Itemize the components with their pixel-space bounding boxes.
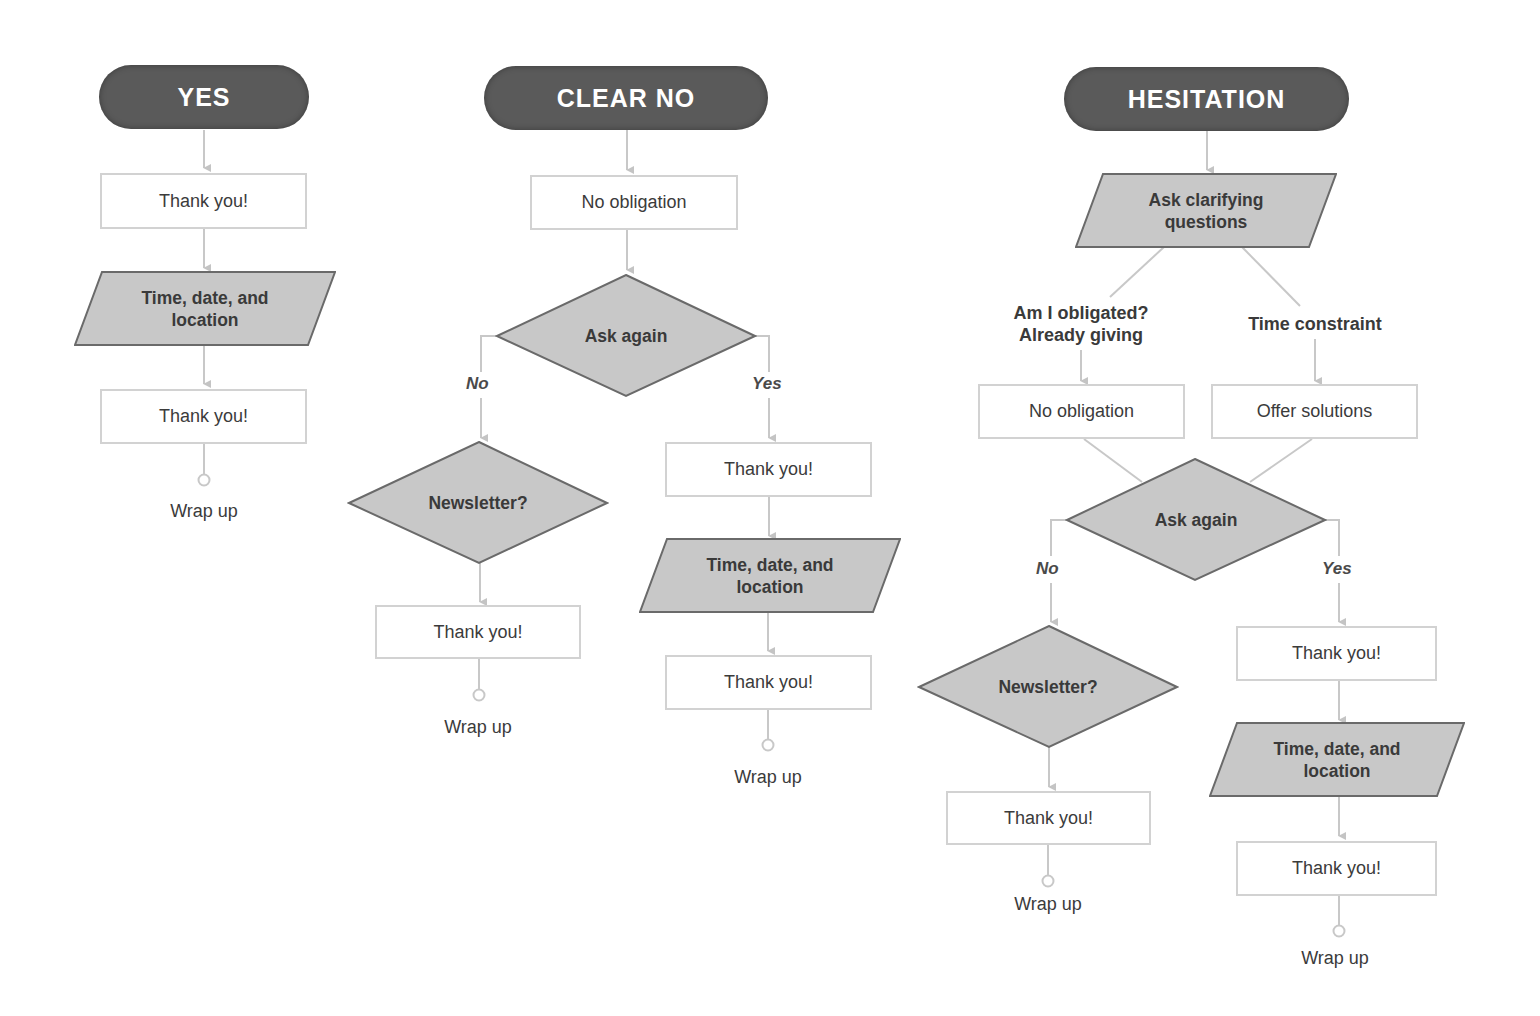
hesitation-yes-thank-you-label-1: Thank you!: [1292, 643, 1381, 664]
clear-no-ask-again-label: Ask again: [585, 325, 668, 347]
hesitation-ask-again-diamond: Ask again: [1065, 458, 1327, 582]
clear-no-no-thank-you-box: Thank you!: [375, 605, 581, 659]
hesitation-offer-solutions-box: Offer solutions: [1211, 384, 1418, 439]
hesitation-yes-thank-you-box-1: Thank you!: [1236, 626, 1437, 681]
hesitation-reason-time-label: Time constraint: [1215, 313, 1415, 335]
hesitation-reason-obligated-label: Am I obligated? Already giving: [981, 302, 1181, 346]
yes-thank-you-label-1: Thank you!: [159, 191, 248, 212]
clear-no-yes-wrap-up-label: Wrap up: [688, 766, 848, 788]
hesitation-no-thank-you-box: Thank you!: [946, 791, 1151, 845]
clear-no-no-wrap-up-label: Wrap up: [398, 716, 558, 738]
clear-no-header-terminal: CLEAR NO: [484, 66, 768, 130]
clear-no-ask-again-diamond: Ask again: [495, 274, 757, 398]
hesitation-no-wrap-up-label: Wrap up: [968, 893, 1128, 915]
clear-no-yes-thank-you-box-1: Thank you!: [665, 442, 872, 497]
hesitation-branch-yes-label: Yes: [1322, 559, 1352, 579]
hesitation-no-thank-you-label: Thank you!: [1004, 808, 1093, 829]
yes-wrap-up-label: Wrap up: [124, 500, 284, 522]
clear-no-branch-no-label: No: [466, 374, 489, 394]
clear-no-branch-yes-label: Yes: [752, 374, 782, 394]
hesitation-newsletter-label: Newsletter?: [998, 676, 1097, 698]
clear-no-header-label: CLEAR NO: [557, 84, 696, 113]
clear-no-no-thank-you-label: Thank you!: [433, 622, 522, 643]
hesitation-yes-wrap-up-label: Wrap up: [1255, 947, 1415, 969]
clear-no-newsletter-diamond: Newsletter?: [347, 441, 609, 565]
hesitation-header-terminal: HESITATION: [1064, 67, 1349, 131]
hesitation-ask-clarifying-parallelogram: Ask clarifying questions: [1075, 173, 1337, 248]
hesitation-no-obligation-label: No obligation: [1029, 401, 1134, 422]
hesitation-header-label: HESITATION: [1128, 85, 1286, 114]
flowchart-canvas: YES Thank you! Time, date, and location …: [0, 0, 1540, 1016]
yes-thank-you-box-1: Thank you!: [100, 173, 307, 229]
hesitation-yes-thank-you-box-2: Thank you!: [1236, 841, 1437, 896]
hesitation-ask-again-label: Ask again: [1155, 509, 1238, 531]
clear-no-no-obligation-label: No obligation: [581, 192, 686, 213]
yes-header-terminal: YES: [99, 65, 309, 129]
clear-no-newsletter-label: Newsletter?: [428, 492, 527, 514]
clear-no-yes-thank-you-label-2: Thank you!: [724, 672, 813, 693]
hesitation-no-obligation-box: No obligation: [978, 384, 1185, 439]
yes-time-date-location-parallelogram: Time, date, and location: [74, 271, 336, 346]
hesitation-ask-clarifying-label: Ask clarifying questions: [1149, 189, 1264, 233]
yes-header-label: YES: [177, 83, 230, 112]
hesitation-yes-thank-you-label-2: Thank you!: [1292, 858, 1381, 879]
clear-no-yes-time-date-location-label: Time, date, and location: [706, 554, 833, 598]
clear-no-no-obligation-box: No obligation: [530, 175, 738, 230]
clear-no-yes-thank-you-box-2: Thank you!: [665, 655, 872, 710]
hesitation-yes-time-date-location-label: Time, date, and location: [1273, 738, 1400, 782]
yes-thank-you-box-2: Thank you!: [100, 389, 307, 444]
clear-no-yes-thank-you-label-1: Thank you!: [724, 459, 813, 480]
yes-time-date-location-label: Time, date, and location: [141, 287, 268, 331]
hesitation-branch-no-label: No: [1036, 559, 1059, 579]
yes-thank-you-label-2: Thank you!: [159, 406, 248, 427]
clear-no-yes-time-date-location-parallelogram: Time, date, and location: [639, 538, 901, 613]
hesitation-newsletter-diamond: Newsletter?: [917, 625, 1179, 749]
hesitation-yes-time-date-location-parallelogram: Time, date, and location: [1209, 722, 1465, 797]
hesitation-offer-solutions-label: Offer solutions: [1257, 401, 1373, 422]
